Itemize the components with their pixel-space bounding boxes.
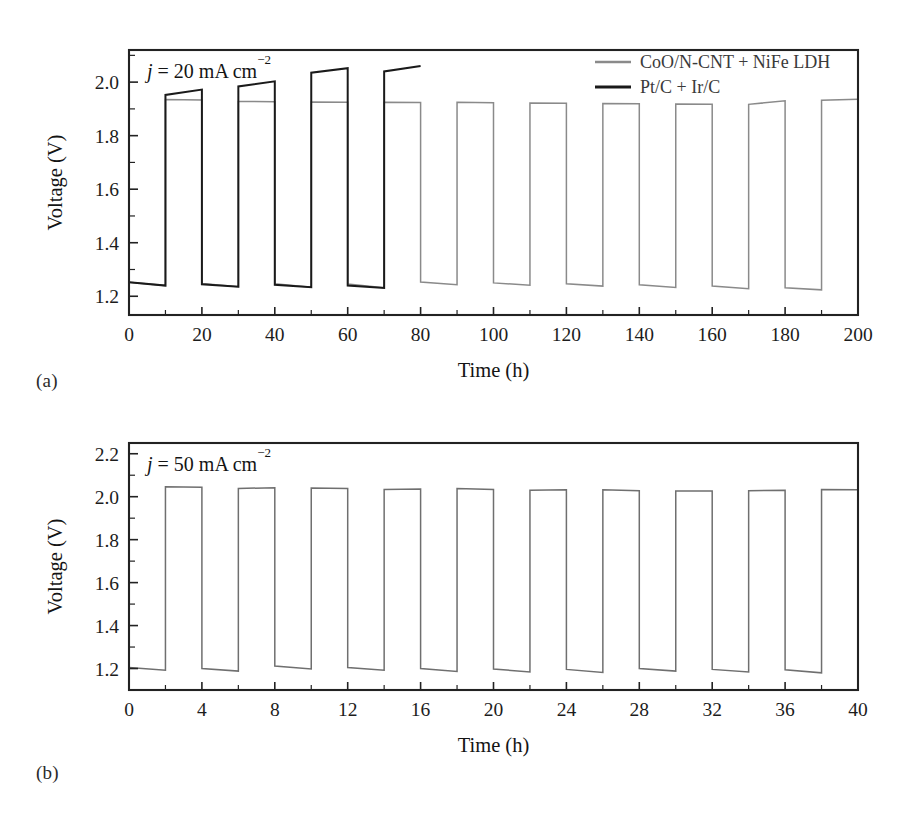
x-tick-label: 36 bbox=[775, 699, 795, 720]
legend-label-1: CoO/N-CNT + NiFe LDH bbox=[640, 52, 830, 72]
x-axis-title: Time (h) bbox=[458, 359, 530, 382]
x-tick-label: 180 bbox=[770, 324, 799, 345]
x-tick-label: 12 bbox=[338, 699, 358, 720]
x-tick-label: 32 bbox=[702, 699, 722, 720]
annotation-text: = 50 mA cm bbox=[153, 453, 258, 475]
x-tick-label: 0 bbox=[124, 699, 134, 720]
y-tick-label: 1.2 bbox=[95, 659, 119, 680]
figure-container: 0204060801001201401601802001.21.41.61.82… bbox=[0, 0, 921, 821]
x-tick-label: 4 bbox=[197, 699, 207, 720]
y-tick-label: 1.2 bbox=[95, 286, 119, 307]
series-line-1 bbox=[129, 487, 858, 673]
x-tick-label: 120 bbox=[552, 324, 581, 345]
x-tick-label: 16 bbox=[411, 699, 431, 720]
x-tick-label: 0 bbox=[124, 324, 134, 345]
x-tick-label: 160 bbox=[698, 324, 727, 345]
legend-label-2: Pt/C + Ir/C bbox=[640, 77, 720, 97]
chart-panel-b: 04812162024283236401.21.41.61.82.02.2Tim… bbox=[0, 400, 921, 821]
x-tick-label: 80 bbox=[411, 324, 431, 345]
panel-a-label: (a) bbox=[36, 370, 58, 392]
current-density-annotation: j = 20 mA cm−2 bbox=[144, 52, 271, 84]
chart-panel-a: 0204060801001201401601802001.21.41.61.82… bbox=[0, 0, 921, 410]
chart-b-svg: 04812162024283236401.21.41.61.82.02.2Tim… bbox=[0, 400, 921, 821]
current-density-annotation: j = 50 mA cm−2 bbox=[144, 445, 271, 477]
series-group bbox=[129, 66, 858, 290]
y-tick-label: 2.0 bbox=[95, 72, 119, 93]
x-tick-label: 100 bbox=[479, 324, 508, 345]
y-tick-label: 1.6 bbox=[95, 179, 120, 200]
x-tick-label: 40 bbox=[848, 699, 868, 720]
y-tick-label: 2.0 bbox=[95, 487, 119, 508]
x-tick-label: 24 bbox=[557, 699, 577, 720]
y-axis-title: Voltage (V) bbox=[44, 135, 67, 231]
y-tick-label: 1.4 bbox=[95, 233, 120, 254]
annotation-superscript: −2 bbox=[257, 52, 271, 67]
y-tick-label: 1.8 bbox=[95, 126, 119, 147]
y-tick-label: 2.2 bbox=[95, 444, 119, 465]
x-tick-label: 20 bbox=[192, 324, 212, 345]
y-tick-label: 1.8 bbox=[95, 530, 119, 551]
annotation-text: = 20 mA cm bbox=[153, 60, 258, 82]
y-axis-title: Voltage (V) bbox=[44, 519, 67, 615]
series-group bbox=[129, 487, 858, 673]
x-tick-label: 8 bbox=[270, 699, 280, 720]
x-tick-label: 140 bbox=[625, 324, 654, 345]
y-tick-label: 1.4 bbox=[95, 616, 120, 637]
chart-a-svg: 0204060801001201401601802001.21.41.61.82… bbox=[0, 0, 921, 410]
x-tick-label: 200 bbox=[843, 324, 872, 345]
x-tick-label: 40 bbox=[265, 324, 285, 345]
x-tick-label: 28 bbox=[630, 699, 650, 720]
y-tick-label: 1.6 bbox=[95, 573, 120, 594]
panel-b-label: (b) bbox=[36, 762, 59, 784]
x-axis-title: Time (h) bbox=[458, 734, 530, 757]
x-tick-label: 20 bbox=[484, 699, 504, 720]
x-tick-label: 60 bbox=[338, 324, 358, 345]
annotation-superscript: −2 bbox=[257, 445, 271, 460]
